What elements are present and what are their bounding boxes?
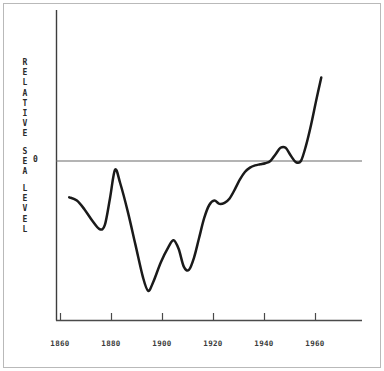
x-tick-label-1900: 1900 (152, 339, 171, 348)
sea-level-curve (69, 77, 321, 290)
chart-screenshot: R E L A T I V E S E A L E V E L 0 (0, 0, 384, 371)
plot-area (0, 0, 384, 371)
x-tick-label-1860: 1860 (50, 339, 69, 348)
x-tick-label-1960: 1960 (305, 339, 324, 348)
x-tick-label-1940: 1940 (254, 339, 273, 348)
x-tick-label-1920: 1920 (203, 339, 222, 348)
x-axis-ticks (61, 313, 316, 321)
x-tick-label-1880: 1880 (101, 339, 120, 348)
